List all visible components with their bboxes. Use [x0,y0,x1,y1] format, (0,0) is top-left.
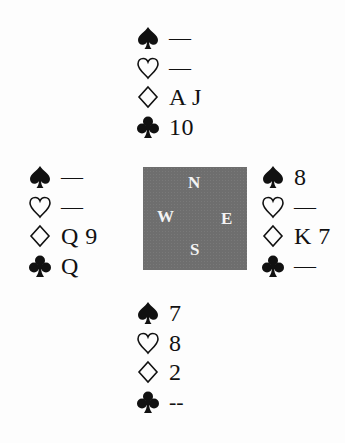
hand-south: 7 8 2 -- [135,298,184,417]
compass-west-label: W [157,208,174,225]
north-diamonds-cards: A J [169,84,202,110]
south-spades-row: 7 [135,298,184,328]
compass-north-label: N [188,174,200,191]
west-clubs-row: Q [27,251,98,281]
diamond-icon [135,359,161,385]
north-spades-row: — [135,23,202,53]
west-clubs-cards: Q [61,253,79,279]
north-hearts-row: — [135,53,202,83]
east-hearts-cards: — [294,194,316,220]
hand-north: — — A J 10 [135,23,202,142]
spade-icon [135,300,161,326]
north-diamonds-row: A J [135,83,202,113]
west-spades-row: — [27,162,98,192]
club-icon [260,253,286,279]
south-hearts-cards: 8 [169,330,182,356]
compass-south-label: S [190,241,199,258]
east-clubs-row: — [260,251,331,281]
east-hearts-row: — [260,192,331,222]
south-spades-cards: 7 [169,300,182,326]
hand-west: — — Q 9 Q [27,162,98,281]
east-diamonds-row: K 7 [260,222,331,252]
compass-table: N W E S [143,167,247,270]
south-hearts-row: 8 [135,328,184,358]
club-icon [135,389,161,415]
heart-icon [135,55,161,81]
east-clubs-cards: — [294,253,316,279]
heart-icon [260,194,286,220]
club-icon [27,253,53,279]
east-spades-cards: 8 [294,164,307,190]
west-diamonds-row: Q 9 [27,222,98,252]
diamond-icon [135,84,161,110]
south-clubs-row: -- [135,387,184,417]
north-clubs-cards: 10 [169,114,194,140]
south-clubs-cards: -- [169,389,184,415]
heart-icon [135,330,161,356]
east-diamonds-cards: K 7 [294,223,331,249]
spade-icon [260,164,286,190]
spade-icon [27,164,53,190]
west-spades-cards: — [61,164,83,190]
north-spades-cards: — [169,25,191,51]
south-diamonds-cards: 2 [169,359,182,385]
east-spades-row: 8 [260,162,331,192]
west-hearts-cards: — [61,194,83,220]
diamond-icon [260,223,286,249]
compass-east-label: E [221,210,232,227]
hand-east: 8 — K 7 — [260,162,331,281]
south-diamonds-row: 2 [135,358,184,388]
north-clubs-row: 10 [135,112,202,142]
west-hearts-row: — [27,192,98,222]
north-hearts-cards: — [169,55,191,81]
diamond-icon [27,223,53,249]
club-icon [135,114,161,140]
heart-icon [27,194,53,220]
spade-icon [135,25,161,51]
west-diamonds-cards: Q 9 [61,223,98,249]
